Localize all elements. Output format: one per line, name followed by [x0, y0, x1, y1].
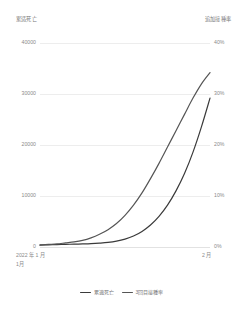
data-curves — [40, 43, 210, 247]
chart-container: 累适死亡 追加接種率 010000200003000040000 0%10%20… — [0, 0, 243, 312]
series-line — [40, 73, 210, 245]
x-axis-label-start: 2022 年 1 月 — [16, 252, 45, 260]
left-axis-tick-label: 10000 — [22, 193, 36, 198]
right-axis-tick-label: 10% — [214, 193, 224, 198]
legend-label: 3回目接種率 — [136, 290, 164, 295]
right-axis-tick-label: 0% — [214, 244, 222, 249]
right-axis-tick-label: 30% — [214, 91, 224, 96]
chart-legend: 累適死亡3回目接種率 — [0, 290, 243, 295]
left-axis-tick-label: 30000 — [22, 91, 36, 96]
plot-area: 010000200003000040000 0%10%20%30%40% — [40, 43, 210, 247]
x-axis-label-start-sub: 1月 — [16, 261, 24, 269]
legend-item-booster-rate[interactable]: 3回目接種率 — [122, 290, 164, 295]
legend-item-deaths[interactable]: 累適死亡 — [80, 290, 114, 295]
x-axis-label-end: 2 月 — [202, 252, 211, 260]
legend-swatch-icon — [80, 292, 91, 293]
x-axis-labels: 2022 年 1 月 1月 2 月 — [0, 252, 243, 284]
left-axis-tick-label: 40000 — [22, 40, 36, 45]
series-line — [40, 98, 210, 245]
left-axis-title: 累适死亡 — [16, 15, 37, 22]
gridline — [40, 247, 210, 248]
right-axis-title: 追加接種率 — [205, 15, 231, 22]
left-axis-tick-label: 0 — [33, 244, 36, 249]
right-axis-tick-label: 40% — [214, 40, 224, 45]
legend-label: 累適死亡 — [94, 290, 114, 295]
right-axis-tick-label: 20% — [214, 142, 224, 147]
left-axis-tick-label: 20000 — [22, 142, 36, 147]
legend-swatch-icon — [122, 292, 133, 293]
